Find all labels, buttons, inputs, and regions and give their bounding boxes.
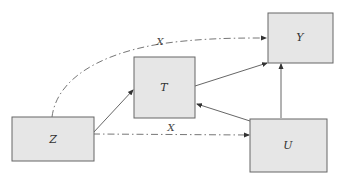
edge-z-to-t [93,90,133,133]
edge-label-lower-x: X [166,122,175,133]
edge-t-to-y [195,63,267,86]
node-z-label: Z [48,133,57,146]
edge-label-upper-x: X [155,36,164,47]
edge-u-to-t [197,104,250,121]
node-u: U [250,119,327,172]
node-u-label: U [283,139,293,152]
causal-diagram: Z T Y U X X [0,0,342,182]
edge-z-to-u [93,134,249,135]
node-z: Z [12,117,94,161]
node-y: Y [268,13,333,63]
node-t: T [134,57,195,118]
